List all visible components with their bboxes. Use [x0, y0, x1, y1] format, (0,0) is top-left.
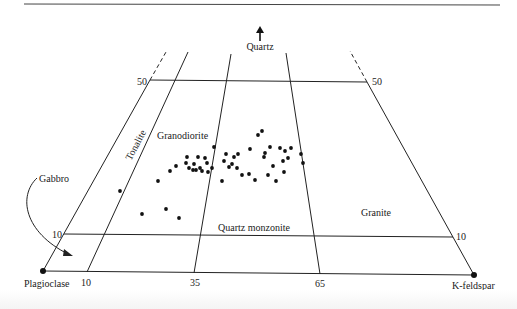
data-point [168, 169, 172, 173]
data-point [301, 161, 305, 165]
data-point [286, 156, 290, 160]
data-point [224, 152, 228, 156]
apex-label-quartz: Quartz [246, 41, 274, 52]
data-point [205, 161, 209, 165]
data-point [222, 159, 226, 163]
data-point [232, 155, 236, 159]
data-point [266, 173, 270, 177]
plagioclase-corner-dot [40, 268, 46, 274]
field-label-granodiorite: Granodiorite [157, 130, 209, 141]
k-feldspar-corner-dot [471, 272, 477, 278]
data-point [299, 152, 303, 156]
data-point [196, 155, 200, 159]
field-label-granite: Granite [361, 207, 392, 218]
data-point [289, 146, 293, 150]
left-edge-dashed [150, 52, 166, 80]
data-point [236, 152, 240, 156]
top-rule [24, 4, 500, 5]
data-point [118, 189, 122, 193]
field-label-tonalite: Tonalite [123, 127, 148, 161]
tick-quartz-10-right: 10 [456, 231, 466, 242]
data-point [253, 178, 257, 182]
tick-quartz-50-left: 50 [137, 76, 147, 87]
data-point [187, 166, 191, 170]
divider-35 [194, 54, 231, 273]
corner-label-plagioclase: Plagioclase [24, 278, 70, 289]
data-point [156, 179, 160, 183]
data-point [260, 129, 264, 133]
data-point [206, 170, 210, 174]
field-label-gabbro: Gabbro [39, 173, 69, 184]
data-point [262, 155, 266, 159]
base-line [43, 271, 474, 275]
gabbro-curved-arrow-icon [27, 178, 73, 256]
tick-quartz-10-left: 10 [52, 229, 62, 240]
data-point [278, 146, 282, 150]
data-point [164, 207, 168, 211]
data-point [263, 151, 267, 155]
data-point [235, 166, 239, 170]
data-point [227, 165, 231, 169]
data-point [140, 212, 144, 216]
data-point [220, 179, 224, 183]
quartz-arrow-icon [256, 26, 264, 41]
data-point [177, 216, 181, 220]
data-point [248, 147, 252, 151]
data-point [185, 155, 189, 159]
quartz-10-line [64, 234, 453, 237]
data-point [274, 179, 278, 183]
data-point [282, 170, 286, 174]
page-edge-shading [0, 290, 517, 309]
data-point [194, 168, 198, 172]
data-point [212, 145, 216, 149]
tick-base-65: 65 [315, 278, 325, 289]
data-point [210, 166, 214, 170]
data-point [203, 156, 207, 160]
data-point [240, 173, 244, 177]
tick-base-10: 10 [81, 277, 91, 288]
quartz-50-line [150, 80, 367, 82]
data-point [256, 133, 260, 137]
data-point [247, 172, 251, 176]
right-edge-dashed [350, 51, 367, 82]
data-point [192, 162, 196, 166]
data-point [230, 162, 234, 166]
field-label-quartz-monzonite: Quartz monzonite [218, 222, 290, 233]
tick-base-35: 35 [190, 277, 200, 288]
qap-diagram: Quartz 50 50 10 10 10 35 65 Plagioclase … [0, 0, 517, 309]
data-point [283, 149, 287, 153]
data-point [281, 159, 285, 163]
data-point [174, 164, 178, 168]
right-edge [367, 82, 474, 275]
data-point [200, 169, 204, 173]
data-point [268, 145, 272, 149]
data-point [184, 161, 188, 165]
data-point [271, 164, 275, 168]
tick-quartz-50-right: 50 [372, 76, 382, 87]
